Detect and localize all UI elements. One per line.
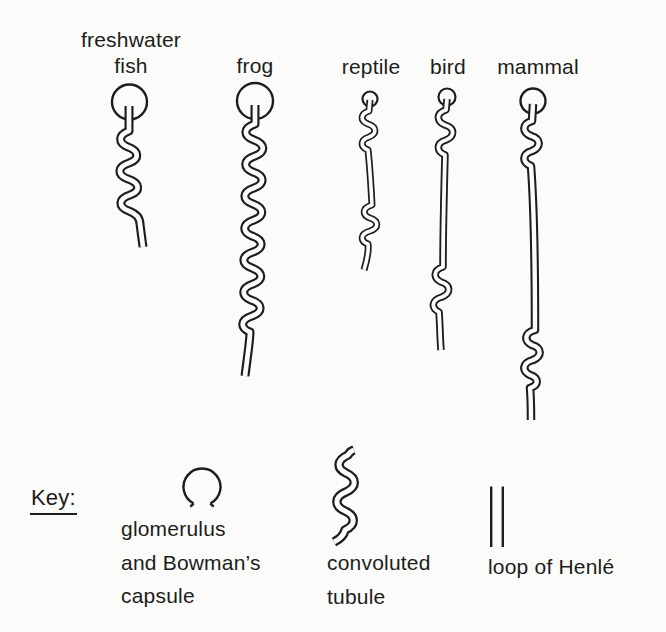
key-heading: Key: xyxy=(30,485,77,515)
key-label-glomerulus-line1: glomerulus xyxy=(121,512,261,546)
bird-nephron-drawing xyxy=(433,89,455,351)
key-label-glomerulus-line3: capsule xyxy=(121,579,261,613)
key-label-henle-line1: loop of Henlé xyxy=(488,550,614,584)
mammal-nephron-drawing xyxy=(521,89,546,421)
frog-nephron-drawing xyxy=(237,83,273,376)
key-label-convoluted-line2: tubule xyxy=(327,580,431,614)
label-freshwater-fish: freshwater fish xyxy=(71,27,191,79)
diagram-line-art xyxy=(0,0,666,632)
key-heading-text: Key: xyxy=(30,485,77,515)
label-frog: frog xyxy=(195,53,315,79)
key-glomerulus-flare-right xyxy=(210,504,214,507)
key-glomerulus-flare-left xyxy=(190,504,194,507)
key-label-convoluted-line1: convoluted xyxy=(327,546,431,580)
bird-tubule-lumen xyxy=(433,99,452,350)
reptile-nephron-drawing xyxy=(362,92,377,271)
key-label-loop-of-henle: loop of Henlé xyxy=(488,550,614,584)
key-label-glomerulus: glomerulus and Bowman’s capsule xyxy=(121,512,261,613)
fish-nephron-drawing xyxy=(112,85,147,248)
nephron-comparison-diagram: freshwater fish frog reptile bird mammal… xyxy=(0,0,666,632)
key-glomerulus-symbol xyxy=(183,469,220,507)
key-label-convoluted-tubule: convoluted tubule xyxy=(327,546,431,613)
key-convoluted-tubule-symbol xyxy=(334,450,354,542)
label-mammal: mammal xyxy=(478,54,598,80)
key-label-glomerulus-line2: and Bowman’s xyxy=(121,546,261,580)
key-glomerulus-circle-icon xyxy=(183,469,220,504)
